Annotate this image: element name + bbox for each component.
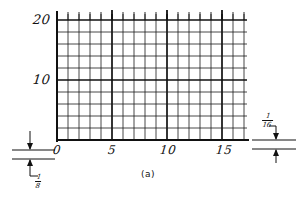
y-axis-tick-label-20: 20 [32,13,51,26]
x-axis-tick-label-10: 10 [159,144,177,156]
x-axis-tick-label-5: 5 [107,144,116,156]
right-fraction-denominator: 16 [261,122,273,129]
right-dimension-annotation [252,126,296,163]
left-dimension-annotation [12,131,55,176]
arrowhead-up-lower [27,159,33,166]
grid-major-vertical-lines [112,14,222,140]
x-axis-tick-label-0: 0 [52,144,61,156]
grid-minor-vertical-lines [68,14,244,140]
right-fraction-numerator: 1 [262,113,274,120]
left-fraction-denominator: 8 [34,183,42,190]
grid-major-line-overhang-top [112,10,222,20]
grid-line-overhang-top [68,12,244,20]
grid-major-horizontal-lines [57,20,247,80]
left-fraction-numerator: 1 [35,174,43,181]
arrowhead-down-right-upper [273,133,279,140]
x-axis-tick-label-15: 15 [215,144,233,156]
arrowhead-down-upper [27,143,33,150]
right-dimension-fraction: 1 16 [261,113,274,129]
y-axis-tick-label-10: 10 [32,73,51,86]
arrowhead-up-right-lower [273,149,279,156]
figure-caption: (a) [141,169,155,179]
grid-axis-lines [57,12,248,141]
